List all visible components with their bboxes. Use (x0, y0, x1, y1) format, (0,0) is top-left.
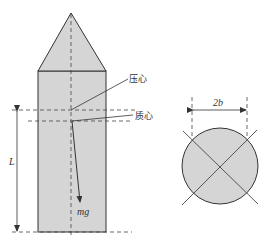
diameter-label: 2b (213, 97, 223, 108)
length-label: L (8, 156, 15, 167)
rocket-side-view (12, 13, 138, 236)
rocket-body (38, 71, 106, 232)
diagram-canvas: 压心 质心 mg L 2b (0, 0, 271, 244)
pressure-center-label: 压心 (129, 74, 147, 84)
mass-center-label: 质心 (135, 110, 153, 121)
cross-section-view (182, 97, 258, 205)
weight-label: mg (77, 206, 89, 217)
rocket-nose-cone (38, 13, 106, 71)
